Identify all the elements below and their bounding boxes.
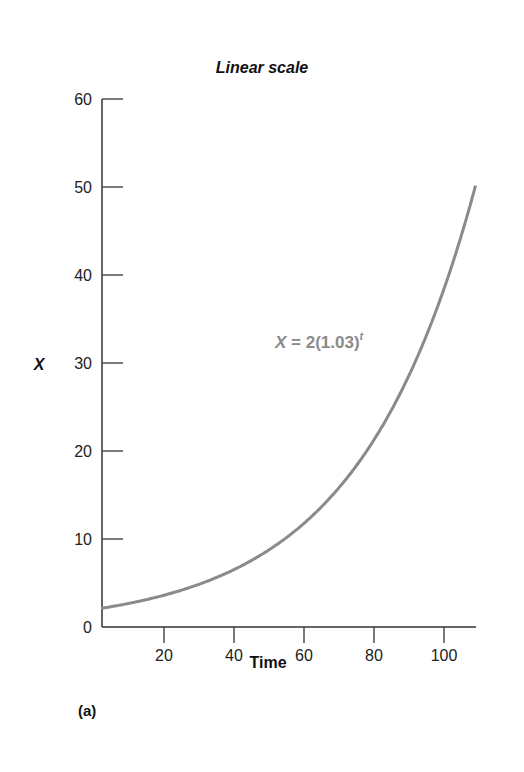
x-tick-label: 20 bbox=[155, 647, 173, 664]
x-tick-label: 100 bbox=[431, 647, 458, 664]
x-tick-label: 60 bbox=[295, 647, 313, 664]
x-tick-label: 40 bbox=[225, 647, 243, 664]
y-tick-label: 10 bbox=[74, 531, 92, 548]
panel-label: (a) bbox=[78, 702, 96, 719]
y-tick-label: 30 bbox=[74, 355, 92, 372]
y-tick-label: 20 bbox=[74, 443, 92, 460]
chart: Linear scale010203040506020406080100Time… bbox=[0, 0, 524, 772]
data-series-line bbox=[101, 186, 476, 609]
y-tick-label: 40 bbox=[74, 267, 92, 284]
equation-annotation: X = 2(1.03)t bbox=[274, 330, 365, 352]
y-axis-title: X bbox=[33, 356, 46, 373]
y-tick-label: 50 bbox=[74, 179, 92, 196]
x-tick-label: 80 bbox=[365, 647, 383, 664]
y-tick-label: 0 bbox=[83, 619, 92, 636]
y-tick-label: 60 bbox=[74, 91, 92, 108]
x-axis-title: Time bbox=[249, 654, 286, 671]
chart-title: Linear scale bbox=[216, 59, 309, 76]
